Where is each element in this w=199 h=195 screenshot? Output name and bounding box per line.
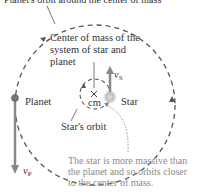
star-velocity-arrowhead-icon (106, 66, 114, 74)
planet-icon (12, 95, 19, 102)
planet-velocity-arrowhead-icon (11, 165, 19, 174)
cm-marker-label: cm (88, 98, 101, 109)
note-text: The star is more massive than the planet… (68, 155, 187, 188)
note-line-3: to the center of mass. (68, 177, 187, 188)
cm-label-line-3: planet (50, 57, 76, 68)
note-line-1: The star is more massive than (68, 155, 187, 166)
cm-label-line-1: Center of mass of the (50, 33, 140, 44)
caption-leader-line (47, 6, 55, 24)
star-icon (103, 90, 117, 104)
star-orbit-label: Star's orbit (61, 122, 106, 133)
planet-label: Planet (25, 97, 51, 108)
planet-velocity-subscript: P (28, 170, 32, 178)
star-label: Star (121, 97, 138, 108)
top-caption: Planet's orbit around the center of mass (4, 0, 161, 5)
orbit-arrow-icon (40, 37, 46, 42)
star-velocity-subscript: S (119, 74, 123, 82)
planet-velocity-label: vP (23, 166, 32, 178)
cm-label-line-2: system of star and (50, 45, 126, 56)
note-leader-arrowhead-icon (104, 103, 109, 107)
orbit-arrow-icon (169, 96, 175, 102)
note-line-2: the planet and so orbits closer (68, 166, 187, 177)
star-orbit-leader-line (71, 109, 77, 121)
star-velocity-label: vS (114, 70, 123, 82)
note-leader-line (106, 105, 128, 152)
